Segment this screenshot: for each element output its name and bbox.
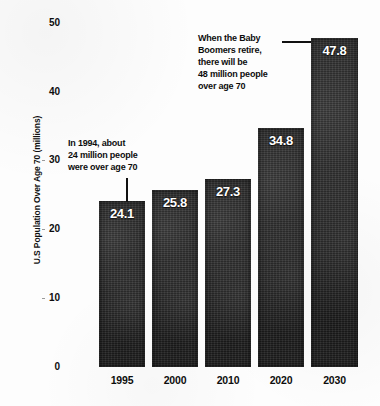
y-axis-ticks: 50 40 30 20 10 0 [26, 0, 60, 406]
x-tick-label-2030: 2030 [311, 374, 358, 386]
annotation-1994-leader-line [126, 178, 128, 202]
bar-2020[interactable]: 34.8 [258, 128, 304, 367]
y-tick-mark-30 [42, 160, 45, 161]
bar-chart: U.S Population Over Age 70 (millions) 50… [0, 0, 380, 406]
x-tick-label-2020: 2020 [258, 374, 304, 386]
y-tick-label-0: 0 [26, 362, 60, 372]
bar-value-2020: 34.8 [258, 133, 304, 148]
x-tick-label-1995: 1995 [99, 374, 145, 386]
bar-slot-2000: 25.8 [152, 8, 198, 367]
y-tick-label-40: 40 [26, 87, 60, 97]
bar-slot-2030: 47.8 [311, 8, 358, 367]
annotation-baby-boomers-leader-line [282, 41, 311, 43]
bar-1995[interactable]: 24.1 [99, 201, 145, 367]
bar-value-2030: 47.8 [311, 43, 358, 58]
bar-value-2000: 25.8 [152, 195, 198, 210]
bar-value-1995: 24.1 [99, 206, 145, 221]
annotation-1994: In 1994, about 24 million people were ov… [68, 138, 188, 174]
bar-2000[interactable]: 25.8 [152, 190, 198, 367]
bar-value-2010: 27.3 [205, 184, 251, 199]
y-tick-mark-10 [42, 298, 45, 299]
bar-2010[interactable]: 27.3 [205, 179, 251, 367]
x-tick-label-2010: 2010 [205, 374, 251, 386]
y-tick-mark-20 [42, 229, 45, 230]
y-tick-label-50: 50 [26, 18, 60, 28]
bar-2030[interactable]: 47.8 [311, 38, 358, 367]
x-tick-label-2000: 2000 [152, 374, 198, 386]
bar-slot-1995: 24.1 [99, 8, 145, 367]
